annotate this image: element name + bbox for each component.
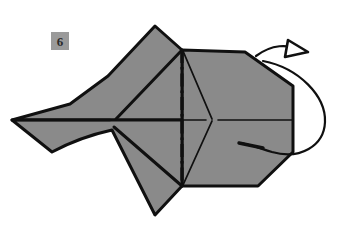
lower-left-flap-shape [12, 120, 182, 215]
right-panel-shape [182, 50, 293, 186]
origami-step-figure: 6 [0, 0, 348, 234]
step-number-label: 6 [57, 35, 64, 48]
turn-over-arrowhead-icon [285, 40, 308, 57]
step-number-badge: 6 [51, 32, 69, 50]
upper-left-flap-shape [12, 26, 182, 120]
